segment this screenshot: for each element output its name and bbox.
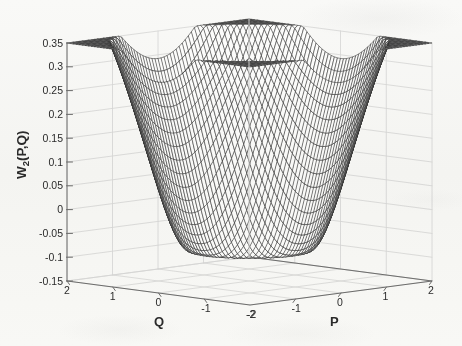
p-axis-label: P bbox=[330, 315, 339, 328]
z-axis-label-subscript: 2 bbox=[20, 161, 31, 166]
p-tick-label: 0 bbox=[337, 297, 355, 308]
figure-3d-surface-plot: -0.15-0.1-0.0500.050.10.150.20.250.30.35… bbox=[0, 0, 462, 346]
p-tick-label: 2 bbox=[428, 285, 446, 296]
z-tick-label: 0.2 bbox=[27, 109, 63, 120]
z-tick-label: -0.05 bbox=[27, 228, 63, 239]
z-tick-label: 0.15 bbox=[27, 133, 63, 144]
q-tick-label: 0 bbox=[156, 297, 174, 308]
q-tick-label: -1 bbox=[201, 303, 219, 314]
z-axis-label: W2(P,Q) bbox=[15, 115, 29, 195]
p-tick-label: 1 bbox=[383, 291, 401, 302]
z-tick-label: 0.1 bbox=[27, 157, 63, 168]
z-axis-label-main: W bbox=[14, 166, 29, 179]
z-tick-label: -0.15 bbox=[27, 276, 63, 287]
z-axis-label-args: (P,Q) bbox=[14, 130, 29, 161]
q-axis-label: Q bbox=[154, 315, 164, 328]
z-tick-label: -0.1 bbox=[27, 252, 63, 263]
p-tick-label: -1 bbox=[292, 303, 310, 314]
z-tick-label: 0.05 bbox=[27, 180, 63, 191]
z-tick-label: 0.3 bbox=[27, 61, 63, 72]
q-tick-label: 2 bbox=[64, 285, 82, 296]
z-tick-label: 0 bbox=[27, 204, 63, 215]
q-tick-label: 1 bbox=[110, 291, 128, 302]
z-tick-label: 0.35 bbox=[27, 38, 63, 49]
p-tick-label: -2 bbox=[246, 309, 264, 320]
z-tick-label: 0.25 bbox=[27, 85, 63, 96]
